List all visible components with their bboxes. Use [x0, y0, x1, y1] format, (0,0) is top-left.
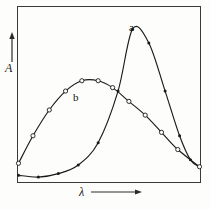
curve-a-point: [147, 41, 150, 44]
curve-a-point: [178, 134, 181, 137]
curve-a-point: [77, 164, 80, 167]
plot-canvas: [0, 0, 211, 210]
curve-b: [16, 79, 201, 169]
curve-a-point: [97, 141, 100, 144]
curve-b-point: [176, 147, 180, 151]
x-axis-label: λ: [79, 186, 84, 198]
curve-b-point: [80, 79, 84, 83]
curve-a: [17, 26, 201, 178]
curve-b-point: [127, 99, 131, 103]
y-axis-arrow-icon: [9, 32, 14, 62]
curve-b-point: [31, 134, 35, 138]
curve-a-markers: [17, 28, 201, 179]
curve-b-point: [159, 130, 163, 134]
spectrum-figure: A λ a b: [0, 0, 211, 210]
curve-a-point: [17, 174, 20, 177]
curve-a-line: [19, 26, 200, 177]
curve-a-point: [37, 176, 40, 179]
y-axis-label: A: [5, 62, 12, 74]
curve-b-point: [96, 79, 100, 83]
curve-b-point: [16, 161, 20, 165]
curve-b-point: [47, 108, 51, 112]
curve-b-point: [143, 113, 147, 117]
curve-a-point: [57, 172, 60, 175]
curve-b-point: [197, 165, 201, 169]
curve-a-label: a: [129, 22, 134, 33]
plot-frame-border: [18, 7, 201, 183]
curve-b-point: [111, 86, 115, 90]
curve-a-point: [164, 90, 167, 93]
curve-b-label: b: [73, 92, 79, 103]
x-axis-arrow-icon: [91, 189, 142, 194]
curve-b-point: [63, 89, 67, 93]
curve-b-markers: [16, 79, 201, 169]
curve-b-line: [19, 80, 200, 167]
